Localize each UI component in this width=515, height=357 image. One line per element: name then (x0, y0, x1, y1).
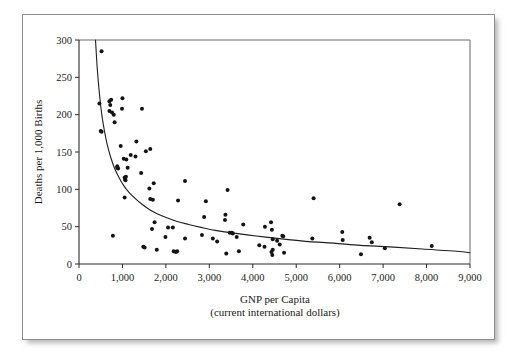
data-point (123, 196, 127, 200)
x-tick-label: 5,000 (284, 272, 308, 283)
data-point (370, 240, 374, 244)
x-tick-label: 4,000 (241, 272, 265, 283)
data-point (113, 120, 117, 124)
data-point (430, 244, 434, 248)
y-axis-ticks (75, 40, 79, 264)
x-tick-label: 0 (76, 272, 81, 283)
data-point (204, 199, 208, 203)
data-point (257, 243, 261, 247)
data-point (150, 227, 154, 231)
data-point (215, 240, 219, 244)
x-tick-label: 7,000 (371, 272, 395, 283)
data-point (166, 225, 170, 229)
data-point (134, 140, 138, 144)
data-point (124, 175, 128, 179)
data-point (271, 237, 275, 241)
plot-axes (79, 40, 470, 264)
data-point (241, 222, 245, 226)
y-tick-label: 150 (56, 147, 72, 158)
data-point (278, 243, 282, 247)
data-point (231, 231, 235, 235)
x-tick-label: 9,000 (458, 272, 482, 283)
data-point (235, 235, 239, 239)
data-point (129, 153, 133, 157)
x-tick-label: 2,000 (154, 272, 178, 283)
x-axis-subtitle: (current international dollars) (210, 306, 340, 319)
data-point (224, 252, 228, 256)
data-point (112, 113, 116, 117)
data-point (368, 236, 372, 240)
y-tick-label: 200 (56, 109, 72, 120)
data-point (202, 215, 206, 219)
data-point (176, 199, 180, 203)
data-point (109, 98, 113, 102)
data-point (124, 157, 128, 161)
x-tick-label: 3,000 (198, 272, 222, 283)
data-point (163, 235, 167, 239)
x-axis-tick-labels: 01,0002,0003,0004,0005,0006,0007,0008,00… (76, 272, 481, 283)
data-point (341, 238, 345, 242)
data-point (275, 239, 279, 243)
data-point (126, 166, 130, 170)
data-point (223, 213, 227, 217)
data-point (139, 171, 143, 175)
data-point (133, 154, 137, 158)
data-point (143, 246, 147, 250)
y-tick-label: 300 (56, 35, 72, 46)
data-point (310, 237, 314, 241)
data-point (116, 166, 120, 170)
scatter-point-group (97, 49, 433, 257)
data-point (100, 130, 104, 134)
data-point (270, 253, 274, 257)
data-point (144, 149, 148, 153)
data-point (120, 107, 124, 111)
y-tick-label: 0 (67, 259, 72, 270)
data-point (281, 234, 285, 238)
data-point (340, 230, 344, 234)
data-point (282, 251, 286, 255)
data-point (183, 179, 187, 183)
data-point (155, 248, 159, 252)
data-point (111, 234, 115, 238)
data-point (119, 144, 123, 148)
data-point (269, 220, 273, 224)
data-point (200, 233, 204, 237)
plot-frame (79, 40, 470, 264)
x-axis-title: GNP per Capita (240, 293, 310, 305)
data-point (148, 147, 152, 151)
y-axis-tick-labels: 050100150200250300 (56, 35, 72, 270)
data-point (270, 228, 274, 232)
scatter-chart: 01,0002,0003,0004,0005,0006,0007,0008,00… (0, 0, 515, 357)
data-point (140, 107, 144, 111)
data-point (271, 248, 275, 252)
y-axis-title: Deaths per 1,000 Births (32, 100, 44, 204)
data-point (120, 96, 124, 100)
fitted-trend-curve (96, 40, 470, 253)
data-point (263, 245, 267, 249)
data-point (263, 225, 267, 229)
data-point (183, 237, 187, 241)
data-point (147, 187, 151, 191)
data-point (151, 198, 155, 202)
y-tick-label: 50 (62, 221, 73, 232)
data-point (108, 103, 112, 107)
y-tick-label: 250 (56, 72, 72, 83)
chart-svg: 01,0002,0003,0004,0005,0006,0007,0008,00… (0, 0, 515, 357)
data-point (211, 237, 215, 241)
x-tick-label: 6,000 (328, 272, 352, 283)
data-point (359, 252, 363, 256)
data-point (153, 220, 157, 224)
data-point (398, 202, 402, 206)
figure-page: 01,0002,0003,0004,0005,0006,0007,0008,00… (0, 0, 515, 357)
data-point (152, 181, 156, 185)
x-tick-label: 1,000 (111, 272, 135, 283)
y-tick-label: 100 (56, 184, 72, 195)
data-point (97, 101, 101, 105)
data-point (383, 246, 387, 250)
x-axis-ticks (79, 264, 470, 268)
data-point (175, 249, 179, 253)
data-point (237, 249, 241, 253)
data-point (312, 196, 316, 200)
data-point (100, 49, 104, 53)
x-tick-label: 8,000 (415, 272, 439, 283)
